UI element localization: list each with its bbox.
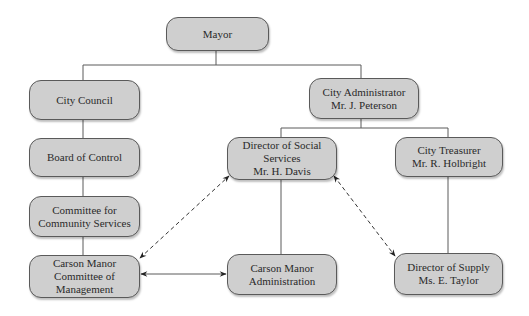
node-city-council: City Council xyxy=(29,80,140,120)
node-director-social-services: Director of SocialServicesMr. H. Davis xyxy=(227,137,337,180)
node-city-administrator: City AdministratorMr. J. Peterson xyxy=(309,78,419,119)
node-label: Committee for xyxy=(52,204,116,217)
node-label: City Treasurer xyxy=(417,144,480,157)
node-label: Carson Manor xyxy=(250,262,313,275)
dashed-double-arrow-director-social-services-director-of-supply xyxy=(334,176,395,256)
dashed-double-arrow-carson-manor-committee-director-social-services xyxy=(140,176,229,258)
connector-mayor-to-city-council xyxy=(83,51,216,80)
node-label: Administration xyxy=(249,275,316,288)
node-label: Mr. J. Peterson xyxy=(331,99,397,112)
node-label: Mr. H. Davis xyxy=(253,165,310,178)
node-mayor: Mayor xyxy=(166,17,269,51)
node-city-treasurer: City TreasurerMr. R. Holbright xyxy=(395,137,503,177)
node-label: Director of Social xyxy=(243,139,322,152)
node-label: City Council xyxy=(56,94,113,107)
connector-mayor-to-city-administrator xyxy=(216,65,361,78)
node-label: Board of Control xyxy=(47,151,122,164)
connector-city-administrator-to-director-social-services xyxy=(281,119,361,137)
connector-city-administrator-to-city-treasurer xyxy=(361,128,448,137)
node-label: Management xyxy=(56,283,113,296)
org-chart: MayorCity CouncilCity AdministratorMr. J… xyxy=(0,0,529,316)
node-board-of-control: Board of Control xyxy=(29,138,140,177)
node-director-of-supply: Director of SupplyMs. E. Taylor xyxy=(394,253,503,295)
node-label: Committee of xyxy=(54,270,115,283)
node-carson-manor-administration: Carson ManorAdministration xyxy=(227,254,337,295)
node-label: Ms. E. Taylor xyxy=(418,274,478,287)
node-committee-community-services: Committee forCommunity Services xyxy=(29,196,140,237)
node-label: Carson Manor xyxy=(53,257,116,270)
node-label: Services xyxy=(263,152,300,165)
node-label: City Administrator xyxy=(323,86,406,99)
node-label: Mr. R. Holbright xyxy=(412,157,486,170)
node-label: Mayor xyxy=(203,28,232,41)
node-label: Community Services xyxy=(38,217,131,230)
node-carson-manor-committee: Carson ManorCommittee ofManagement xyxy=(29,255,140,298)
node-label: Director of Supply xyxy=(407,261,489,274)
